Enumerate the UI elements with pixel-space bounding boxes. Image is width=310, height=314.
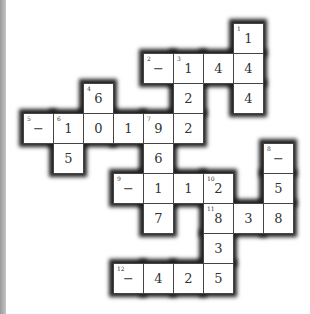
grid-cell[interactable]: 8− (263, 143, 294, 174)
cell-value: 4 (234, 61, 263, 76)
grid-cell[interactable]: 3 (233, 203, 264, 234)
cell-value: − (264, 151, 293, 166)
grid-cell[interactable]: 7 (143, 203, 174, 234)
cell-value: 4 (204, 61, 233, 76)
grid-cell[interactable]: 5 (263, 173, 294, 204)
grid-cell[interactable]: 79 (143, 113, 174, 144)
grid-cell[interactable]: 2 (173, 113, 204, 144)
cell-value: 6 (84, 91, 113, 106)
grid-cell[interactable]: 4 (233, 83, 264, 114)
cell-value: − (114, 181, 143, 196)
grid-cell[interactable]: 5− (23, 113, 54, 144)
grid-cell[interactable]: 12− (113, 263, 144, 294)
grid-cell[interactable]: 5 (203, 263, 234, 294)
grid-cell[interactable]: 11 (233, 23, 264, 54)
grid-cell[interactable]: 8 (263, 203, 294, 234)
cell-value: − (144, 61, 173, 76)
cell-value: 0 (84, 121, 113, 136)
cell-value: 5 (204, 271, 233, 286)
grid-cell[interactable]: 102 (203, 173, 234, 204)
cell-value: 2 (174, 91, 203, 106)
grid-cell[interactable]: 3 (203, 233, 234, 264)
cell-value: 1 (174, 61, 203, 76)
grid-cell[interactable]: 2 (173, 83, 204, 114)
cell-value: 3 (204, 241, 233, 256)
cell-value: 3 (234, 211, 263, 226)
cell-value: 8 (264, 211, 293, 226)
cell-value: 5 (54, 151, 83, 166)
cell-value: 4 (144, 271, 173, 286)
cell-value: 8 (204, 211, 233, 226)
grid-cell[interactable]: 6 (143, 143, 174, 174)
grid-cell[interactable]: 1 (143, 173, 174, 204)
cell-value: 1 (234, 31, 263, 46)
grid-cell[interactable]: 118 (203, 203, 234, 234)
cell-value: 7 (144, 211, 173, 226)
grid-cell[interactable]: 2− (143, 53, 174, 84)
grid-cell[interactable]: 5 (53, 143, 84, 174)
cell-value: 9 (144, 121, 173, 136)
cell-value: 1 (54, 121, 83, 136)
cell-value: 1 (174, 181, 203, 196)
cell-value: 1 (144, 181, 173, 196)
grid-cell[interactable]: 1 (173, 173, 204, 204)
grid-cell[interactable]: 4 (233, 53, 264, 84)
cross-number-grid: 112−314446245−6101792568−9−1110257118383… (0, 0, 310, 314)
cell-value: 6 (144, 151, 173, 166)
grid-cell[interactable]: 46 (83, 83, 114, 114)
grid-cell[interactable]: 2 (173, 263, 204, 294)
grid-cell[interactable]: 31 (173, 53, 204, 84)
cell-value: − (114, 271, 143, 286)
cell-value: 2 (204, 181, 233, 196)
cell-value: 1 (114, 121, 143, 136)
grid-cell[interactable]: 4 (143, 263, 174, 294)
cell-value: 4 (234, 91, 263, 106)
grid-cell[interactable]: 0 (83, 113, 114, 144)
cell-value: 5 (264, 181, 293, 196)
cell-value: 2 (174, 121, 203, 136)
grid-cell[interactable]: 4 (203, 53, 234, 84)
grid-cell[interactable]: 61 (53, 113, 84, 144)
grid-cell[interactable]: 9− (113, 173, 144, 204)
cell-value: 2 (174, 271, 203, 286)
grid-cell[interactable]: 1 (113, 113, 144, 144)
cell-value: − (24, 121, 53, 136)
